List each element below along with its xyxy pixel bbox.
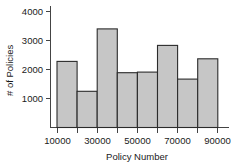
x-tick-label-50000: 50000 bbox=[124, 135, 150, 146]
bar-bin-3 bbox=[97, 29, 117, 128]
y-tick-marks bbox=[46, 12, 51, 99]
x-tick-label-30000: 30000 bbox=[84, 135, 110, 146]
x-tick-labels: 10000 30000 50000 70000 90000 bbox=[44, 135, 230, 146]
chart-canvas: 4000 3000 2000 1000 # of Policies bbox=[0, 0, 241, 165]
bar-bin-5 bbox=[137, 72, 157, 127]
bar-bin-7 bbox=[178, 79, 198, 127]
x-tick-label-90000: 90000 bbox=[204, 135, 230, 146]
x-tick-marks bbox=[58, 128, 218, 133]
bar-bin-8 bbox=[198, 59, 218, 128]
y-tick-label-3000: 3000 bbox=[22, 35, 43, 46]
x-tick-label-10000: 10000 bbox=[44, 135, 70, 146]
y-tick-label-2000: 2000 bbox=[22, 64, 43, 75]
x-axis-title: Policy Number bbox=[106, 151, 168, 162]
bar-bin-4 bbox=[117, 73, 137, 128]
histogram-figure: 4000 3000 2000 1000 # of Policies bbox=[0, 0, 241, 165]
y-tick-labels: 4000 3000 2000 1000 bbox=[22, 6, 43, 104]
y-axis-title: # of Policies bbox=[4, 45, 15, 96]
y-tick-label-4000: 4000 bbox=[22, 6, 43, 17]
bars-group bbox=[57, 29, 218, 128]
bar-bin-2 bbox=[77, 91, 97, 127]
x-tick-label-70000: 70000 bbox=[164, 135, 190, 146]
bar-bin-1 bbox=[57, 61, 77, 127]
bar-bin-6 bbox=[158, 45, 178, 127]
y-tick-label-1000: 1000 bbox=[22, 93, 43, 104]
